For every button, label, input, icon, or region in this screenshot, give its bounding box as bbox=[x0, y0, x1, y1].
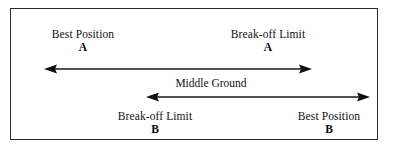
range-arrow-a bbox=[44, 63, 312, 75]
diagram-canvas: Best Position A Break-off Limit A Middle… bbox=[0, 0, 393, 149]
diagram-frame: Best Position A Break-off Limit A Middle… bbox=[10, 8, 378, 140]
range-arrow-b bbox=[146, 91, 370, 103]
label-best-position-b: Best Position B bbox=[277, 110, 381, 135]
label-middle-ground: Middle Ground bbox=[161, 77, 261, 89]
label-best-position-b-text: Best Position bbox=[277, 110, 381, 122]
label-best-position-a: Best Position A bbox=[33, 28, 133, 53]
label-breakoff-limit-a-letter: A bbox=[216, 41, 320, 53]
label-best-position-a-letter: A bbox=[33, 41, 133, 53]
label-breakoff-limit-a-text: Break-off Limit bbox=[216, 28, 320, 40]
label-best-position-a-text: Best Position bbox=[33, 28, 133, 40]
label-breakoff-limit-a: Break-off Limit A bbox=[216, 28, 320, 53]
label-breakoff-limit-b-text: Break-off Limit bbox=[103, 110, 207, 122]
label-breakoff-limit-b: Break-off Limit B bbox=[103, 110, 207, 135]
label-best-position-b-letter: B bbox=[277, 123, 381, 135]
label-breakoff-limit-b-letter: B bbox=[103, 123, 207, 135]
